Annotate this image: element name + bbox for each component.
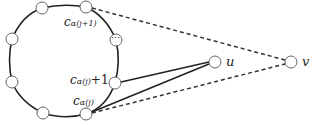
label-c-alpha-j-plus1: cα(j)+1 — [70, 74, 109, 86]
node-left-upper — [6, 33, 18, 45]
graph-diagram — [0, 0, 312, 125]
label-base: c — [64, 15, 71, 29]
node-c-alpha-j — [80, 108, 92, 120]
node-left-lower — [6, 76, 18, 88]
solid-edges — [92, 62, 209, 112]
node-c-alpha-j-plus-1 — [80, 1, 92, 13]
label-subscript: α(j) — [77, 77, 91, 86]
node-top-left — [36, 2, 48, 14]
node-u — [209, 56, 221, 68]
label-base: c — [70, 73, 77, 87]
label-base: c — [73, 94, 80, 108]
label-c-alpha-j: cα(j) — [73, 95, 94, 107]
ellipsis-label: ⋯ — [111, 34, 120, 43]
node-c-alpha-j-plus1 — [109, 77, 121, 89]
label-suffix: +1 — [91, 73, 109, 87]
node-v — [285, 56, 297, 68]
dashed-edges — [92, 8, 285, 113]
label-subscript: α(j+1) — [71, 19, 97, 28]
label-c-alpha-j-plus-1: cα(j+1) — [64, 16, 97, 28]
label-subscript: α(j) — [80, 98, 94, 107]
label-v: v — [302, 55, 309, 68]
node-bottom-left — [37, 107, 49, 119]
label-u: u — [226, 55, 234, 68]
nodes — [6, 1, 297, 120]
